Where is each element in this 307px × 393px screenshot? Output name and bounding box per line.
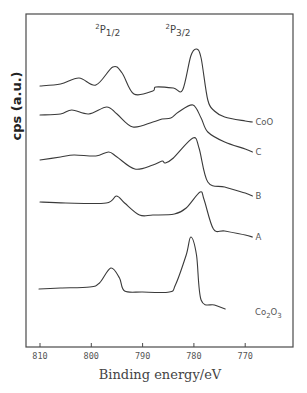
spectrum-b bbox=[40, 138, 252, 196]
x-tick-label: 780 bbox=[186, 351, 201, 361]
x-tick-label: 800 bbox=[84, 351, 99, 361]
plot-frame bbox=[26, 14, 293, 347]
x-tick-label: 810 bbox=[32, 351, 47, 361]
series-labels: CoOCBACo2O3 bbox=[255, 117, 282, 320]
spectrum-a bbox=[40, 192, 252, 237]
peak-annotations: 2P1/22P3/2 bbox=[95, 23, 190, 38]
y-axis-label: cps (a.u.) bbox=[9, 71, 24, 140]
spectra-curves bbox=[39, 49, 252, 309]
series-label-coo: CoO bbox=[255, 117, 273, 127]
xps-chart: 810800790780770 CoOCBACo2O3 2P1/22P3/2 B… bbox=[0, 0, 307, 393]
series-label-co2o3: Co2O3 bbox=[255, 307, 282, 320]
annotation-2p3-2: 2P3/2 bbox=[166, 23, 191, 38]
x-tick-label: 790 bbox=[135, 351, 150, 361]
spectrum-co2o3 bbox=[39, 237, 225, 309]
spectrum-c bbox=[40, 105, 252, 152]
x-axis-ticks: 810800790780770 bbox=[32, 343, 253, 361]
series-label-b: B bbox=[255, 191, 261, 201]
annotation-2p1-2: 2P1/2 bbox=[95, 23, 120, 38]
spectrum-coo bbox=[40, 49, 252, 122]
series-label-a: A bbox=[255, 232, 261, 242]
series-label-c: C bbox=[255, 147, 261, 157]
x-axis-label: Binding energy/eV bbox=[99, 367, 222, 382]
x-tick-label: 770 bbox=[238, 351, 253, 361]
